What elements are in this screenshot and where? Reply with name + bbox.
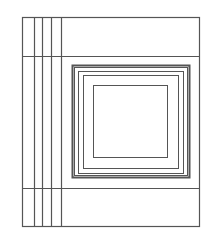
nested-square: [73, 66, 190, 178]
nested-square: [75, 68, 188, 176]
vertical-lines: [35, 17, 62, 226]
nested-squares: [73, 66, 190, 178]
nested-square: [94, 86, 168, 158]
outer-frame: [23, 18, 200, 227]
outer-frame-rect: [23, 18, 200, 227]
line-diagram: [0, 0, 215, 242]
nested-square: [84, 76, 179, 169]
